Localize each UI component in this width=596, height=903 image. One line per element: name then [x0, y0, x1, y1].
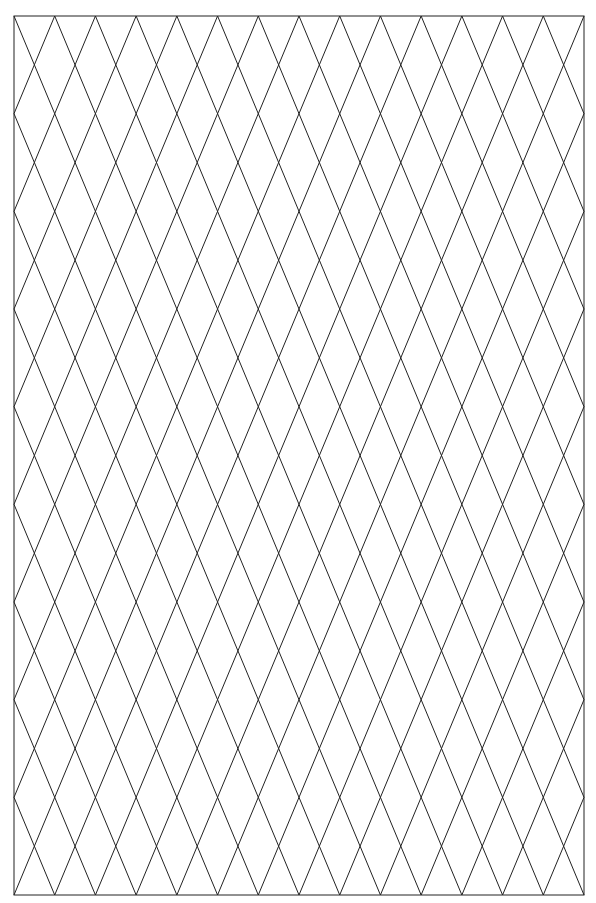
grid-frame — [14, 16, 584, 895]
diamond-lattice-grid — [0, 0, 596, 903]
diagonal-lines — [14, 16, 584, 895]
